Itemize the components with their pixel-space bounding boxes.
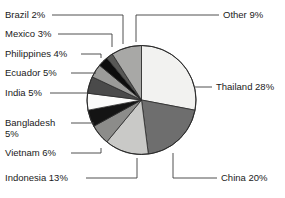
slice-label-india: India 5% — [5, 87, 42, 98]
slice-label-thailand: Thailand 28% — [216, 81, 274, 92]
slice-label-mexico: Mexico 3% — [5, 28, 51, 39]
slice-label-brazil: Brazil 2% — [5, 9, 45, 20]
leader-line-philippines — [81, 54, 101, 58]
pie-slices-group — [87, 46, 196, 155]
slice-label-other: Other 9% — [223, 9, 263, 20]
pie-slice-thailand — [142, 46, 196, 111]
pie-chart-figure: Brazil 2% Mexico 3% Philippines 4% Ecuad… — [0, 0, 285, 198]
slice-label-philippines: Philippines 4% — [5, 48, 67, 59]
leader-line-indonesia — [86, 158, 137, 178]
slice-label-indonesia: Indonesia 13% — [5, 172, 68, 183]
slice-label-vietnam: Vietnam 6% — [5, 147, 56, 158]
leader-line-mexico — [58, 34, 112, 47]
leader-line-vietnam — [71, 148, 101, 153]
slice-label-ecuador: Ecuador 5% — [5, 67, 57, 78]
leader-line-china — [173, 153, 217, 178]
slice-label-china: China 20% — [221, 172, 267, 183]
slice-label-bangladesh: Bangladesh 5% — [5, 117, 67, 139]
leader-line-other — [136, 15, 219, 42]
